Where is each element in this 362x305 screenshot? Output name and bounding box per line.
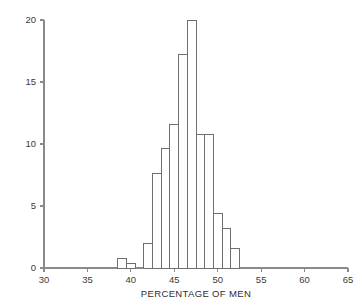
histogram-bar [205,134,214,268]
histogram-bar [127,263,136,268]
x-tick-label-55: 55 [256,274,267,285]
y-tick-label-20: 20 [25,14,36,25]
x-tick-label-35: 35 [82,274,93,285]
histogram-bar [179,55,188,268]
histogram-bar [161,149,170,268]
x-tick-label-45: 45 [169,274,180,285]
y-tick-label-5: 5 [31,200,36,211]
histogram-bar [222,228,231,268]
y-tick-label-0: 0 [31,262,36,273]
x-tick-label-60: 60 [299,274,310,285]
x-tick-label-65: 65 [343,274,354,285]
plot-area: 051015203035404550556065PERCENTAGE OF ME… [25,14,353,299]
x-tick-label-50: 50 [212,274,223,285]
chart-canvas: 051015203035404550556065PERCENTAGE OF ME… [0,0,362,305]
histogram-bar [213,213,222,268]
x-tick-label-30: 30 [39,274,50,285]
histogram-bar [196,134,205,268]
histogram-bar [153,174,162,268]
histogram-chart: 051015203035404550556065PERCENTAGE OF ME… [0,0,362,305]
histogram-bar [118,258,127,268]
y-tick-label-10: 10 [25,138,36,149]
x-axis-title: PERCENTAGE OF MEN [141,288,251,299]
histogram-bar [170,124,179,268]
y-tick-label-15: 15 [25,76,36,87]
histogram-bar [231,248,240,268]
x-tick-label-40: 40 [126,274,137,285]
histogram-bar [187,20,196,268]
histogram-bar [144,243,153,268]
